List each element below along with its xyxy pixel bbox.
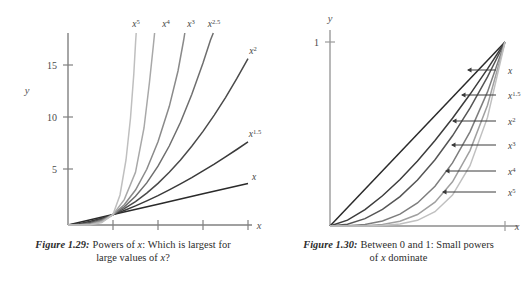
annotation-label-x1-5: x1.5 <box>507 90 521 102</box>
curve-label-x5: x5 <box>131 18 140 30</box>
x-tick-label-2: 2 <box>156 234 161 236</box>
arrow-head-x2 <box>452 119 457 124</box>
figure-1-30: 1 1 y x <box>266 0 531 283</box>
figure-1-29-caption-line1: Powers of x: Which is largest for <box>93 239 231 250</box>
curve-label-x4: x4 <box>161 18 170 30</box>
curve-label-x3: x3 <box>186 18 195 30</box>
curve-label-x2: x2 <box>248 45 257 57</box>
x-axis-label: x <box>256 220 262 231</box>
curve-x <box>68 183 248 225</box>
y-axis-label: y <box>327 13 333 24</box>
annotation-label-x5: x5 <box>507 187 516 199</box>
figure-1-30-svg: 1 1 y x <box>266 0 531 236</box>
annotation-label-x: x <box>507 66 513 76</box>
curve-label-x2-5: x2.5 <box>207 18 221 30</box>
arrow-head-x1-5 <box>461 93 466 98</box>
y-tick-label-10: 10 <box>47 112 57 123</box>
figure-1-30-caption: Figure 1.30:Between 0 and 1: Small power… <box>266 238 531 265</box>
arrow-head-x3 <box>451 143 456 148</box>
figure-1-29-plot: 5 10 15 1 2 3 4 x y <box>0 0 266 236</box>
annotation-label-x4: x4 <box>507 166 516 178</box>
figure-1-29-caption: Figure 1.29:Powers of x: Which is larges… <box>0 238 266 265</box>
figure-1-29-number: Figure 1.29: <box>35 239 89 250</box>
y-tick-label-15: 15 <box>47 60 57 71</box>
annotation-label-x3: x3 <box>507 140 516 152</box>
annotation-label-x2: x2 <box>507 116 516 128</box>
figure-1-30-plot: 1 1 y x <box>266 0 531 236</box>
figure-1-29: 5 10 15 1 2 3 4 x y <box>0 0 266 283</box>
figure-1-30-caption-line1: Between 0 and 1: Small powers <box>360 239 493 250</box>
figure-pair-page: 5 10 15 1 2 3 4 x y <box>0 0 531 283</box>
arrow-head-x <box>467 68 472 73</box>
x-tick-label-3: 3 <box>201 234 206 236</box>
x-axis-label: x <box>514 221 520 232</box>
figure-1-30-caption-line2: of x dominate <box>266 251 531 264</box>
x-tick-label-1: 1 <box>111 234 116 236</box>
y-tick-label-1: 1 <box>314 37 319 48</box>
x-tick-label-4: 4 <box>246 234 251 236</box>
figure-1-29-svg: 5 10 15 1 2 3 4 x y <box>0 0 266 236</box>
curve-label-x1-5: x1.5 <box>248 128 262 140</box>
figure-1-29-caption-line2: large values of x? <box>0 251 266 264</box>
figure-1-30-number: Figure 1.30: <box>303 239 357 250</box>
y-tick-label-5: 5 <box>52 164 57 175</box>
curve-label-x1: x <box>251 172 257 182</box>
annotation-arrows <box>442 68 496 195</box>
x-tick-label-1: 1 <box>503 235 508 236</box>
y-axis-label: y <box>24 85 30 96</box>
